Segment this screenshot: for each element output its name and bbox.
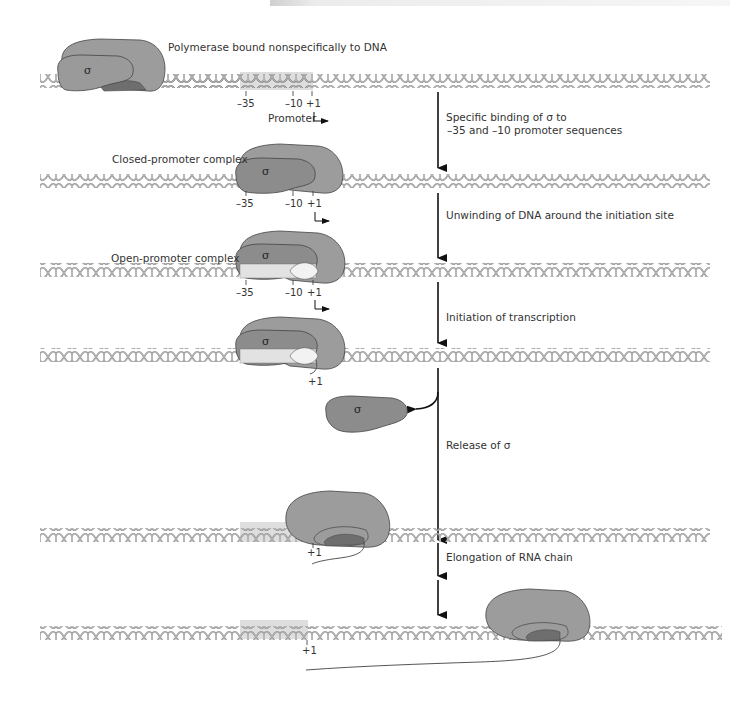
position-plus1: +1 — [306, 98, 321, 109]
position-minus10: –10 — [285, 198, 303, 209]
dna-helix — [40, 348, 710, 362]
stage-elongation-late: +1 — [40, 589, 722, 670]
stage-open-complex: σ Open-promoter complex –35 –10 +1 — [40, 231, 710, 309]
transcription-start-arrow — [315, 300, 329, 309]
sigma-symbol: σ — [262, 165, 270, 178]
step-label: –35 and –10 promoter sequences — [447, 124, 622, 136]
position-minus10: –10 — [285, 287, 303, 298]
stage-label: Closed-promoter complex — [112, 153, 248, 165]
rna-transcript — [306, 639, 560, 670]
step-label: Unwinding of DNA around the initiation s… — [446, 209, 674, 221]
sigma-factor — [326, 396, 407, 432]
stage-initiation: σ +1 — [40, 317, 710, 387]
dna-helix — [40, 174, 710, 188]
position-minus35: –35 — [236, 287, 254, 298]
stage-label: Open-promoter complex — [111, 252, 239, 264]
position-minus10: –10 — [285, 98, 303, 109]
sigma-symbol: σ — [84, 64, 92, 77]
step-label: Initiation of transcription — [446, 311, 576, 323]
dna-helix — [162, 74, 310, 88]
sigma-symbol: σ — [354, 403, 362, 416]
position-minus35: –35 — [236, 198, 254, 209]
position-plus1: +1 — [307, 287, 322, 298]
step-label: Elongation of RNA chain — [446, 551, 573, 563]
stage-elongation-early: +1 — [40, 491, 710, 564]
position-plus1: +1 — [307, 547, 322, 558]
stage-label: Polymerase bound nonspecifically to DNA — [168, 41, 388, 53]
dna-helix — [310, 74, 710, 88]
position-minus35: –35 — [237, 98, 255, 109]
position-plus1: +1 — [308, 376, 323, 387]
transcription-diagram: σ Polymerase bound nonspecifically to DN… — [0, 0, 751, 714]
sigma-symbol: σ — [262, 249, 270, 262]
dna-helix — [40, 626, 722, 640]
position-plus1: +1 — [302, 645, 317, 656]
step-label: Specific binding of σ to — [446, 111, 567, 123]
dna-helix — [40, 263, 710, 277]
step-label: Release of σ — [446, 439, 511, 451]
stage-nonspecific: σ Polymerase bound nonspecifically to DN… — [40, 39, 710, 124]
sigma-release-arrow — [416, 392, 438, 409]
position-plus1: +1 — [307, 198, 322, 209]
released-sigma: σ — [326, 396, 407, 432]
promoter-label: Promoter — [268, 112, 317, 124]
transcription-start-arrow — [315, 212, 329, 221]
sigma-symbol: σ — [262, 335, 270, 348]
